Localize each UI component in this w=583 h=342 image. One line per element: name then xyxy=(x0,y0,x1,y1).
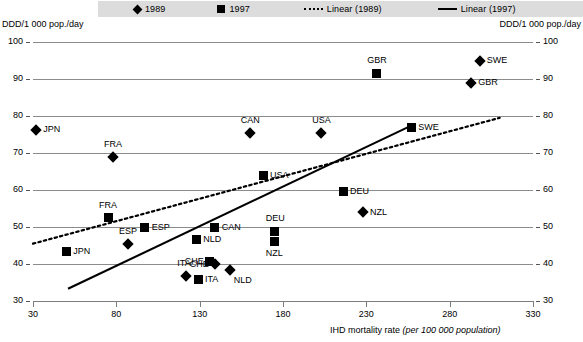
point-label-JPN: JPN xyxy=(73,247,90,256)
data-point-1989-ESP xyxy=(122,238,133,249)
solid-line-icon xyxy=(438,8,457,10)
point-label-CHE: CHE xyxy=(185,257,204,266)
y-axis-label: 50 xyxy=(1,222,23,231)
gridline xyxy=(33,264,533,265)
y-axis-label: 40 xyxy=(1,259,23,268)
point-label-DEU: DEU xyxy=(350,187,369,196)
data-point-1997-JPN xyxy=(62,247,71,256)
data-point-1997-SWE xyxy=(407,123,416,132)
point-label-USA: USA xyxy=(312,116,331,125)
y-axis-label: 60 xyxy=(1,185,23,194)
x-axis-tick xyxy=(283,301,284,307)
point-label-NZL: NZL xyxy=(370,208,387,217)
point-label-ESP: ESP xyxy=(152,223,170,232)
legend-label-1997: 1997 xyxy=(229,5,249,14)
y-axis-label: 70 xyxy=(543,148,565,157)
point-label-FRA: FRA xyxy=(99,201,117,210)
gridline xyxy=(33,227,533,228)
diamond-marker-icon xyxy=(133,4,143,14)
x-axis-caption-units: (per 100 000 population) xyxy=(403,325,501,335)
data-point-1989-NLD xyxy=(224,264,235,275)
gridline xyxy=(33,190,533,191)
dotted-line-icon xyxy=(304,8,323,10)
legend-label-1989: 1989 xyxy=(145,5,165,14)
legend-label-linear-1989: Linear (1989) xyxy=(327,5,382,14)
y-axis-caption-left: DDD/1 000 pop./day xyxy=(2,19,84,29)
y-axis-tick xyxy=(536,301,540,302)
y-axis-tick xyxy=(26,42,30,43)
x-axis-label: 230 xyxy=(359,310,374,319)
x-axis-tick xyxy=(200,301,201,307)
y-axis-label: 90 xyxy=(543,74,565,83)
data-point-1989-CAN xyxy=(244,127,255,138)
point-label-GBR: GBR xyxy=(367,56,387,65)
x-axis-caption-main: IHD mortality rate xyxy=(330,325,403,335)
legend-label-linear-1997: Linear (1997) xyxy=(461,5,516,14)
x-axis-tick xyxy=(116,301,117,307)
data-point-1997-NLD xyxy=(192,235,201,244)
y-axis-label: 100 xyxy=(1,37,23,46)
y-axis-label: 100 xyxy=(543,37,565,46)
y-axis-label: 40 xyxy=(543,259,565,268)
y-axis-tick xyxy=(26,79,30,80)
gridline xyxy=(33,116,533,117)
gridline xyxy=(33,153,533,154)
y-axis-label: 30 xyxy=(543,296,565,305)
y-axis-label: 80 xyxy=(1,111,23,120)
point-label-CAN: CAN xyxy=(222,223,241,232)
point-label-NLD: NLD xyxy=(203,235,221,244)
y-axis-tick xyxy=(536,264,540,265)
y-axis-tick xyxy=(536,190,540,191)
y-axis-tick xyxy=(26,264,30,265)
y-axis-caption-right: DDD/1 000 pop./day xyxy=(499,19,581,29)
point-label-ESP: ESP xyxy=(119,227,137,236)
y-axis-tick xyxy=(536,79,540,80)
y-axis-tick xyxy=(536,227,540,228)
x-axis-label: 80 xyxy=(111,310,121,319)
data-point-1997-DEU xyxy=(339,187,348,196)
x-axis-tick xyxy=(450,301,451,307)
y-axis-label: 30 xyxy=(1,296,23,305)
x-axis-label: 30 xyxy=(28,310,38,319)
x-axis-label: 130 xyxy=(192,310,207,319)
gridline xyxy=(33,42,533,43)
data-point-1989-SWE xyxy=(474,55,485,66)
data-point-1997-CHE xyxy=(205,257,214,266)
data-point-1997-DEU xyxy=(270,227,279,236)
point-label-GBR: GBR xyxy=(478,78,498,87)
x-axis-label: 330 xyxy=(525,310,540,319)
y-axis-tick xyxy=(536,153,540,154)
square-marker-icon xyxy=(217,5,225,13)
y-axis-tick xyxy=(26,227,30,228)
y-axis-tick xyxy=(26,190,30,191)
plot-area: 1001009090808070706060505040403030JPNFRA… xyxy=(33,42,533,301)
point-label-JPN: JPN xyxy=(43,125,60,134)
legend-item-1997: 1997 xyxy=(217,5,249,14)
point-label-NZL: NZL xyxy=(266,249,283,258)
y-axis-tick xyxy=(536,116,540,117)
chart-root: 1989 1997 Linear (1989) Linear (1997) DD… xyxy=(0,0,583,342)
point-label-FRA: FRA xyxy=(104,140,122,149)
gridline xyxy=(33,79,533,80)
x-axis-tick xyxy=(533,301,534,307)
y-axis-label: 60 xyxy=(543,185,565,194)
data-point-1997-NZL xyxy=(270,237,279,246)
point-label-ITA: ITA xyxy=(205,275,218,284)
point-label-DEU: DEU xyxy=(266,214,285,223)
legend-item-linear-1989: Linear (1989) xyxy=(304,5,382,14)
x-axis-label: 280 xyxy=(442,310,457,319)
x-axis-tick xyxy=(33,301,34,307)
data-point-1997-USA xyxy=(259,171,268,180)
legend-item-1989: 1989 xyxy=(134,5,165,14)
chart-legend: 1989 1997 Linear (1989) Linear (1997) xyxy=(98,1,583,17)
y-axis-tick xyxy=(26,301,30,302)
data-point-1989-JPN xyxy=(31,124,42,135)
data-point-1997-ESP xyxy=(140,223,149,232)
data-point-1989-ITA xyxy=(181,270,192,281)
data-point-1989-NZL xyxy=(357,207,368,218)
x-axis-caption: IHD mortality rate (per 100 000 populati… xyxy=(330,325,501,335)
data-point-1989-USA xyxy=(316,127,327,138)
point-label-NLD: NLD xyxy=(234,276,252,285)
data-point-1997-FRA xyxy=(104,213,113,222)
legend-item-linear-1997: Linear (1997) xyxy=(438,5,516,14)
